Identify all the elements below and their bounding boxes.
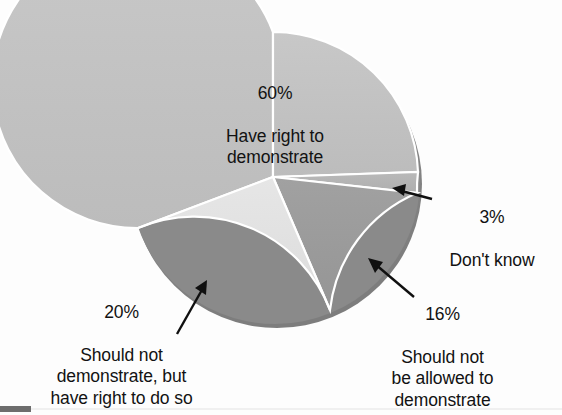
- slice-label-should-not-demonstrate: 20% Should not demonstrate, but have rig…: [14, 281, 229, 415]
- slice-description-3: Don't know: [432, 250, 552, 271]
- slice-label-should-not-be-allowed: 16% Should not be allowed to demonstrate: [360, 283, 525, 415]
- slice-description-20: Should not demonstrate, but have right t…: [14, 345, 229, 409]
- slice-label-have-right-to-demonstrate: 60% Have right to demonstrate: [150, 62, 400, 190]
- slice-percent-16: 16%: [360, 304, 525, 325]
- slice-label-dont-know: 3% Don't know: [432, 186, 552, 293]
- slice-description-60: Have right to demonstrate: [150, 126, 400, 169]
- slice-description-16: Should not be allowed to demonstrate: [360, 347, 525, 411]
- page-edge-hairline: [31, 408, 562, 410]
- page-edge-artifact: [0, 406, 31, 412]
- pie-chart-figure: 60% Have right to demonstrate 3% Don't k…: [0, 0, 562, 415]
- slice-percent-3: 3%: [432, 207, 552, 228]
- slice-percent-60: 60%: [150, 83, 400, 104]
- slice-percent-20: 20%: [14, 302, 229, 323]
